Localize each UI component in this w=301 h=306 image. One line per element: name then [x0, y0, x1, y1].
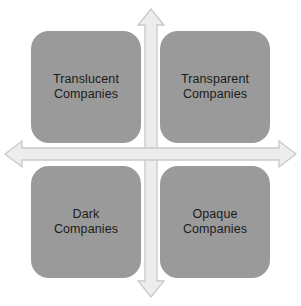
quadrant-translucent[interactable]: Translucent Companies — [31, 31, 141, 143]
quadrant-dark[interactable]: Dark Companies — [31, 166, 141, 278]
quadrant-dark-label: Dark Companies — [54, 207, 118, 238]
horizontal-double-arrow-icon — [5, 141, 296, 167]
matrix-diagram: Translucent Companies Transparent Compan… — [0, 0, 301, 306]
quadrant-opaque[interactable]: Opaque Companies — [160, 166, 270, 278]
quadrant-transparent[interactable]: Transparent Companies — [160, 31, 270, 143]
quadrant-transparent-label: Transparent Companies — [181, 72, 249, 103]
quadrant-opaque-label: Opaque Companies — [183, 207, 247, 238]
quadrant-translucent-label: Translucent Companies — [53, 72, 119, 103]
